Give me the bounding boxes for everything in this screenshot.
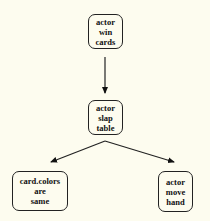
- node-label-line: move: [166, 187, 185, 197]
- node-label-line: win: [99, 27, 112, 37]
- node-label-line: are: [34, 186, 46, 196]
- edge-n2-n4: [105, 141, 174, 162]
- node-label-line: cards: [96, 37, 116, 47]
- node-label-line: table: [97, 123, 115, 133]
- node-label-line: card.colors: [20, 176, 60, 186]
- node-label-line: hand: [166, 197, 184, 207]
- node-label-line: actor: [96, 103, 115, 113]
- node-label-line: actor: [96, 17, 115, 27]
- node-label-line: actor: [166, 177, 185, 187]
- node-card-colors-are-same: card.colors are same: [12, 171, 68, 211]
- node-actor-slap-table: actor slap table: [88, 100, 123, 135]
- edge-n2-n3: [51, 141, 105, 162]
- node-label-line: slap: [98, 113, 113, 123]
- node-actor-move-hand: actor move hand: [158, 171, 193, 212]
- node-label-line: same: [31, 196, 49, 206]
- node-actor-win-cards: actor win cards: [88, 14, 123, 49]
